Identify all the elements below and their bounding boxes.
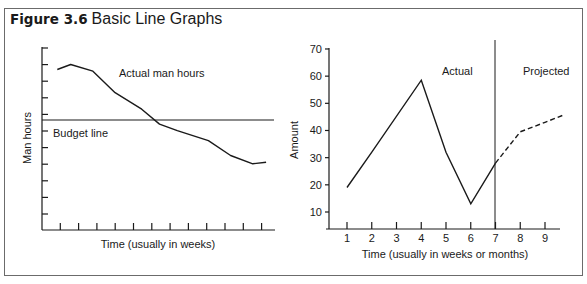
right-x-tick-label: 6 bbox=[468, 232, 474, 244]
left-x-axis-label: Time (usually in weeks) bbox=[101, 238, 216, 250]
right-y-tick-label: 50 bbox=[310, 97, 322, 109]
left-y-axis bbox=[42, 47, 48, 230]
right-y-axis-label: Amount bbox=[288, 121, 300, 159]
right-x-tick-label: 4 bbox=[418, 232, 424, 244]
right-x-tick-label: 1 bbox=[344, 232, 350, 244]
right-x-tick-label: 7 bbox=[492, 232, 498, 244]
right-chart: 10203040506070 123456789 Actual Projecte… bbox=[288, 40, 569, 260]
projected-region-label: Projected bbox=[523, 65, 569, 77]
right-y-tick-label: 40 bbox=[310, 124, 322, 136]
right-x-tick-label: 8 bbox=[517, 232, 523, 244]
right-x-ticks: 123456789 bbox=[344, 222, 548, 244]
actual-man-hours-line bbox=[57, 65, 266, 164]
right-y-ticks: 10203040506070 bbox=[310, 43, 329, 218]
projected-line bbox=[496, 116, 563, 164]
left-y-axis-label: Man hours bbox=[21, 112, 33, 164]
right-y-tick-label: 30 bbox=[310, 152, 322, 164]
right-x-tick-label: 3 bbox=[393, 232, 399, 244]
right-y-tick-label: 70 bbox=[310, 43, 322, 55]
right-x-axis-label: Time (usually in weeks or months) bbox=[362, 248, 528, 260]
right-x-tick-label: 2 bbox=[369, 232, 375, 244]
left-x-axis bbox=[42, 223, 275, 230]
right-y-tick-label: 20 bbox=[310, 179, 322, 191]
actual-line bbox=[347, 80, 496, 204]
budget-line-label: Budget line bbox=[53, 127, 108, 139]
charts-canvas: Actual man hours Budget line Man hours T… bbox=[0, 0, 587, 284]
left-chart: Actual man hours Budget line Man hours T… bbox=[21, 47, 275, 250]
right-y-tick-label: 60 bbox=[310, 70, 322, 82]
actual-region-label: Actual bbox=[442, 65, 473, 77]
right-x-tick-label: 5 bbox=[443, 232, 449, 244]
right-x-tick-label: 9 bbox=[542, 232, 548, 244]
right-y-tick-label: 10 bbox=[310, 206, 322, 218]
actual-man-hours-label: Actual man hours bbox=[119, 67, 205, 79]
